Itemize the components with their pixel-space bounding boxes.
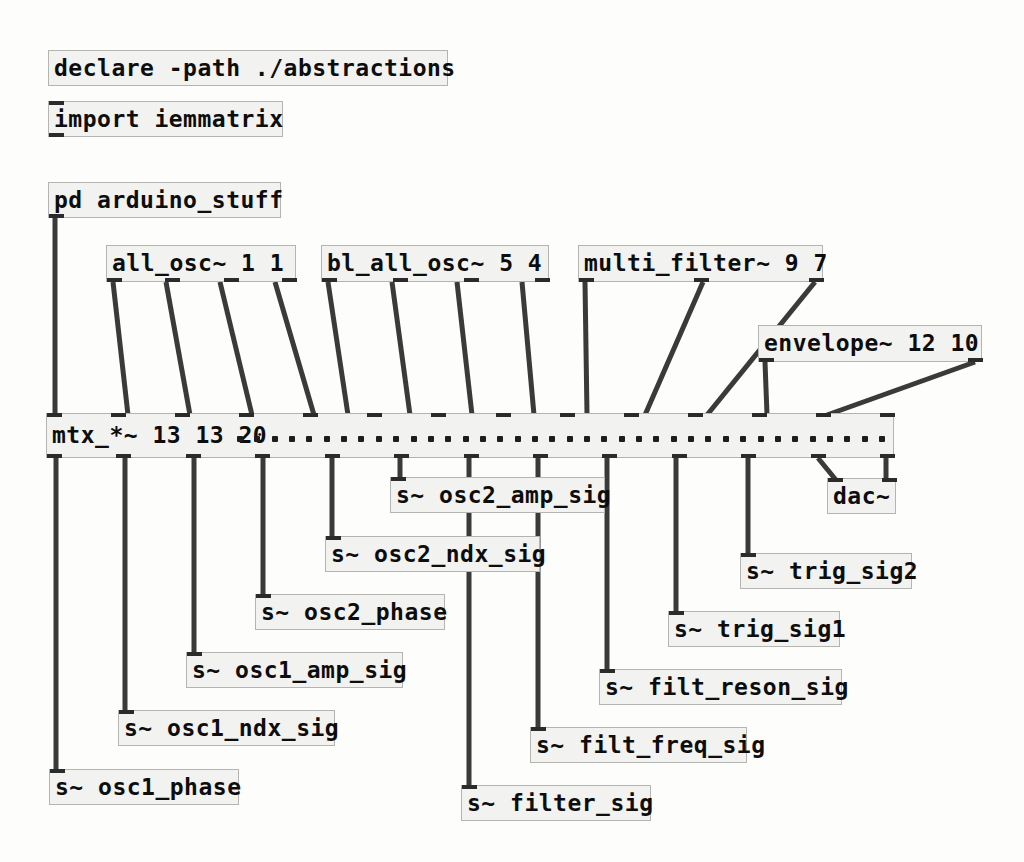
dac-output-object-inlet-0[interactable]	[828, 478, 843, 482]
send-trig-sig2-inlet-0[interactable]	[741, 553, 756, 557]
bl-all-osc-object-outlet-3[interactable]	[535, 278, 550, 282]
wire-allosc-out1-to-mtx[interactable]	[166, 282, 190, 415]
wire-mtx-out11-to-dac-left[interactable]	[818, 458, 836, 480]
signal-dot	[463, 436, 469, 442]
send-osc1-phase-inlet-0[interactable]	[50, 769, 65, 773]
import-object-outlet-0[interactable]	[49, 133, 64, 137]
import-object-inlet-0[interactable]	[49, 101, 64, 105]
mtx-multiply-matrix-object-outlet-12[interactable]	[880, 454, 895, 458]
signal-dot	[636, 436, 642, 442]
declare-object-label: declare -path ./abstractions	[49, 57, 461, 80]
send-filter-sig[interactable]: s~ filter_sig	[461, 785, 651, 821]
multi-filter-object[interactable]: multi_filter~ 9 7	[578, 245, 823, 282]
send-filt-reson-sig[interactable]: s~ filt_reson_sig	[599, 669, 842, 705]
dac-output-object[interactable]: dac~	[827, 478, 896, 514]
mtx-multiply-matrix-object-outlet-11[interactable]	[811, 454, 826, 458]
send-filt-freq-sig[interactable]: s~ filt_freq_sig	[530, 727, 747, 763]
mtx-multiply-matrix-object-outlet-1[interactable]	[116, 454, 131, 458]
declare-object[interactable]: declare -path ./abstractions	[48, 50, 448, 86]
mtx-multiply-matrix-object-inlet-8[interactable]	[560, 413, 575, 417]
multi-filter-object-outlet-0[interactable]	[579, 278, 594, 282]
import-object[interactable]: import iemmatrix	[48, 101, 283, 137]
pd-patch-canvas[interactable]: declare -path ./abstractionsimport iemma…	[0, 0, 1024, 862]
envelope-object-outlet-0[interactable]	[759, 358, 774, 362]
all-osc-object-outlet-3[interactable]	[282, 278, 297, 282]
send-osc2-ndx-sig[interactable]: s~ osc2_ndx_sig	[325, 536, 540, 572]
mtx-multiply-matrix-object-outlet-8[interactable]	[602, 454, 617, 458]
bl-all-osc-object-outlet-0[interactable]	[322, 278, 337, 282]
wire-blallosc-out2-to-mtx[interactable]	[457, 282, 472, 415]
mtx-multiply-matrix-object-label: mtx_*~ 13 13 20	[47, 424, 272, 447]
bl-all-osc-object-outlet-1[interactable]	[393, 278, 408, 282]
signal-dot	[619, 436, 625, 442]
send-trig-sig1-inlet-0[interactable]	[669, 611, 684, 615]
mtx-multiply-matrix-object-inlet-12[interactable]	[816, 413, 831, 417]
mtx-multiply-matrix-object-inlet-4[interactable]	[303, 413, 318, 417]
mtx-multiply-matrix-object-outlet-9[interactable]	[672, 454, 687, 458]
send-osc1-ndx-sig[interactable]: s~ osc1_ndx_sig	[118, 710, 335, 746]
bl-all-osc-object[interactable]: bl_all_osc~ 5 4	[321, 245, 549, 282]
mtx-multiply-matrix-object-inlet-6[interactable]	[431, 413, 446, 417]
mtx-multiply-matrix-object-inlet-13[interactable]	[880, 413, 895, 417]
envelope-object-outlet-1[interactable]	[968, 358, 983, 362]
envelope-object[interactable]: envelope~ 12 10	[758, 325, 982, 362]
pd-subpatch-arduino-stuff-outlet-0[interactable]	[49, 214, 64, 218]
send-osc1-phase[interactable]: s~ osc1_phase	[49, 769, 239, 805]
wire-envelope-out1-to-mtx[interactable]	[827, 362, 975, 415]
signal-dot	[758, 436, 764, 442]
mtx-multiply-matrix-object-outlet-6[interactable]	[464, 454, 479, 458]
send-osc2-phase-inlet-0[interactable]	[256, 594, 271, 598]
wire-allosc-out3-to-mtx[interactable]	[275, 282, 314, 415]
mtx-multiply-matrix-object-inlet-9[interactable]	[624, 413, 639, 417]
wire-blallosc-out0-to-mtx[interactable]	[328, 282, 348, 415]
mtx-multiply-matrix-object-inlet-3[interactable]	[239, 413, 254, 417]
send-trig-sig1[interactable]: s~ trig_sig1	[668, 611, 840, 647]
all-osc-object-outlet-1[interactable]	[165, 278, 180, 282]
pd-subpatch-arduino-stuff[interactable]: pd arduino_stuff	[48, 182, 281, 218]
wire-multifilter-out1-to-mtx[interactable]	[645, 282, 703, 415]
all-osc-object-outlet-2[interactable]	[224, 278, 239, 282]
wire-allosc-out2-to-mtx[interactable]	[220, 282, 252, 415]
mtx-multiply-matrix-object-inlet-11[interactable]	[752, 413, 767, 417]
send-filt-reson-sig-inlet-0[interactable]	[600, 669, 615, 673]
mtx-multiply-matrix-object-outlet-3[interactable]	[255, 454, 270, 458]
mtx-multiply-matrix-object-inlet-7[interactable]	[496, 413, 511, 417]
send-filt-freq-sig-inlet-0[interactable]	[531, 727, 546, 731]
send-filter-sig-inlet-0[interactable]	[462, 785, 477, 789]
multi-filter-object-outlet-2[interactable]	[809, 278, 824, 282]
mtx-multiply-matrix-object[interactable]: mtx_*~ 13 13 20	[46, 413, 894, 458]
mtx-multiply-matrix-object-inlet-2[interactable]	[175, 413, 190, 417]
send-osc1-amp-sig[interactable]: s~ osc1_amp_sig	[186, 652, 403, 688]
send-osc2-amp-sig-label: s~ osc2_amp_sig	[391, 484, 616, 507]
bl-all-osc-object-outlet-2[interactable]	[464, 278, 479, 282]
mtx-multiply-matrix-object-inlet-0[interactable]	[47, 413, 62, 417]
multi-filter-object-outlet-1[interactable]	[694, 278, 709, 282]
wire-envelope-out0-to-mtx[interactable]	[765, 362, 767, 415]
multi-filter-object-label: multi_filter~ 9 7	[579, 252, 833, 275]
mtx-multiply-matrix-object-inlet-10[interactable]	[688, 413, 703, 417]
wire-allosc-out0-to-mtx[interactable]	[113, 282, 128, 415]
wire-multifilter-out0-to-mtx[interactable]	[585, 282, 587, 415]
mtx-multiply-matrix-object-inlet-5[interactable]	[367, 413, 382, 417]
dac-output-object-inlet-1[interactable]	[882, 478, 897, 482]
mtx-multiply-matrix-object-outlet-0[interactable]	[47, 454, 62, 458]
all-osc-object-outlet-0[interactable]	[107, 278, 122, 282]
send-osc2-amp-sig[interactable]: s~ osc2_amp_sig	[390, 477, 605, 513]
mtx-multiply-matrix-object-outlet-10[interactable]	[741, 454, 756, 458]
signal-dot	[272, 436, 278, 442]
send-osc1-ndx-sig-inlet-0[interactable]	[119, 710, 134, 714]
wire-blallosc-out1-to-mtx[interactable]	[392, 282, 410, 415]
wire-blallosc-out3-to-mtx[interactable]	[522, 282, 534, 415]
mtx-multiply-matrix-object-outlet-7[interactable]	[533, 454, 548, 458]
mtx-multiply-matrix-object-outlet-5[interactable]	[394, 454, 409, 458]
all-osc-object[interactable]: all_osc~ 1 1	[106, 245, 296, 282]
mtx-multiply-matrix-object-outlet-4[interactable]	[325, 454, 340, 458]
send-osc2-phase[interactable]: s~ osc2_phase	[255, 594, 445, 630]
envelope-object-label: envelope~ 12 10	[759, 332, 984, 355]
send-osc2-ndx-sig-inlet-0[interactable]	[326, 536, 341, 540]
send-osc2-amp-sig-inlet-0[interactable]	[391, 477, 406, 481]
send-osc1-amp-sig-inlet-0[interactable]	[187, 652, 202, 656]
send-trig-sig2[interactable]: s~ trig_sig2	[740, 553, 912, 589]
mtx-multiply-matrix-object-inlet-1[interactable]	[111, 413, 126, 417]
mtx-multiply-matrix-object-outlet-2[interactable]	[186, 454, 201, 458]
